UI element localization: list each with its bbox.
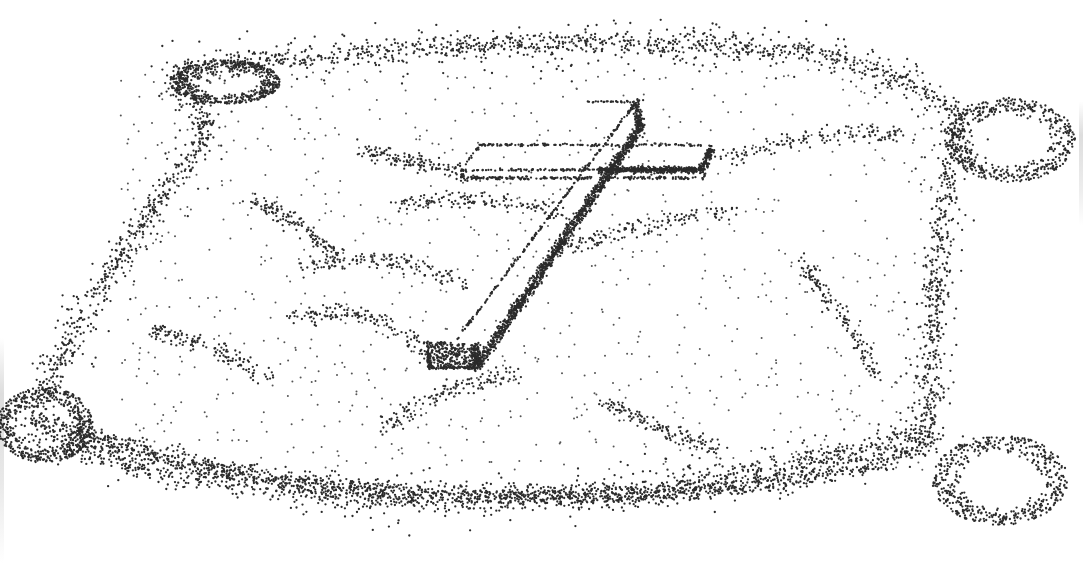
stipple-canvas	[0, 0, 1083, 563]
cross-stipple	[425, 98, 715, 372]
